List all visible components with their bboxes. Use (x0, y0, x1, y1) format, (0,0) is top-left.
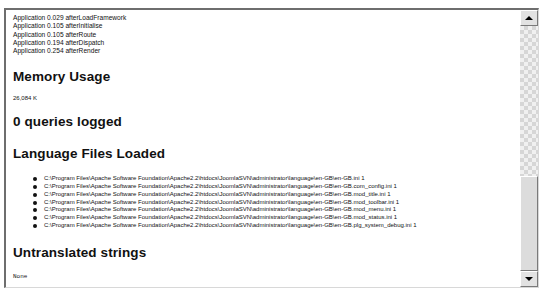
timing-line: Application 0.194 afterDispatch (13, 39, 520, 47)
scroll-down-button[interactable] (520, 271, 538, 287)
timing-line: Application 0.254 afterRender (13, 47, 520, 55)
bullet-icon (33, 208, 37, 212)
vertical-scrollbar[interactable] (520, 10, 538, 287)
list-item: C:\Program Files\Apache Software Foundat… (33, 175, 520, 183)
list-item: C:\Program Files\Apache Software Foundat… (33, 206, 520, 214)
queries-logged-heading: 0 queries logged (13, 114, 520, 129)
bullet-icon (33, 201, 37, 205)
bullet-icon (33, 185, 37, 189)
list-item: C:\Program Files\Apache Software Foundat… (33, 199, 520, 207)
debug-content: Application 0.029 afterLoadFramework App… (6, 10, 520, 287)
list-item: C:\Program Files\Apache Software Foundat… (33, 222, 520, 230)
untranslated-strings-heading: Untranslated strings (13, 245, 520, 260)
language-files-heading: Language Files Loaded (13, 146, 520, 161)
bullet-icon (33, 193, 37, 197)
arrow-down-icon (525, 277, 533, 281)
profile-timing-list: Application 0.029 afterLoadFramework App… (13, 14, 520, 55)
language-file-path: C:\Program Files\Apache Software Foundat… (44, 199, 399, 205)
memory-usage-value: 26,084 K (13, 95, 520, 101)
list-item: C:\Program Files\Apache Software Foundat… (33, 183, 520, 191)
scrollbar-thumb[interactable] (520, 176, 538, 271)
scroll-up-button[interactable] (520, 10, 538, 26)
language-file-path: C:\Program Files\Apache Software Foundat… (44, 175, 365, 181)
timing-line: Application 0.105 afterInitialise (13, 22, 520, 30)
language-files-list: C:\Program Files\Apache Software Foundat… (13, 175, 520, 229)
memory-usage-heading: Memory Usage (13, 69, 520, 84)
language-file-path: C:\Program Files\Apache Software Foundat… (44, 206, 396, 212)
bullet-icon (33, 216, 37, 220)
language-file-path: C:\Program Files\Apache Software Foundat… (44, 214, 397, 220)
language-file-path: C:\Program Files\Apache Software Foundat… (44, 191, 391, 197)
timing-line: Application 0.105 afterRoute (13, 31, 520, 39)
language-file-path: C:\Program Files\Apache Software Foundat… (44, 183, 397, 189)
list-item: C:\Program Files\Apache Software Foundat… (33, 214, 520, 222)
timing-line: Application 0.029 afterLoadFramework (13, 14, 520, 22)
arrow-up-icon (525, 16, 533, 20)
list-item: C:\Program Files\Apache Software Foundat… (33, 191, 520, 199)
untranslated-strings-value: None (13, 273, 520, 280)
bullet-icon (33, 177, 37, 181)
bullet-icon (33, 224, 37, 228)
debug-console-frame: Application 0.029 afterLoadFramework App… (4, 8, 539, 288)
language-file-path: C:\Program Files\Apache Software Foundat… (44, 222, 417, 228)
